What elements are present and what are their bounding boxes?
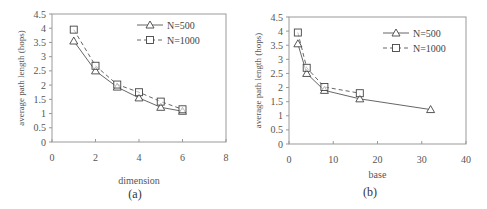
y-tick-label: 3 — [41, 51, 46, 62]
x-axis-label: dimension — [118, 175, 160, 186]
y-tick-label: 1.5 — [34, 94, 47, 105]
square-marker — [294, 29, 301, 36]
y-tick-label: 0 — [278, 139, 283, 150]
legend-label: N=500 — [167, 20, 195, 31]
series-line — [298, 44, 431, 110]
triangle-icon — [392, 29, 400, 36]
square-marker — [92, 62, 99, 69]
y-tick-label: 2 — [278, 82, 283, 93]
series-line — [298, 33, 360, 94]
legend-label: N=1000 — [413, 43, 446, 54]
square-marker — [356, 90, 363, 97]
figure: 00.511.522.533.544.502468dimensionaverag… — [0, 0, 487, 209]
plot-area — [52, 14, 226, 142]
caption: (b) — [363, 185, 377, 199]
square-marker — [157, 98, 164, 105]
legend: N=500N=1000 — [137, 20, 200, 46]
series-line — [74, 41, 183, 111]
x-tick-label: 2 — [93, 152, 98, 163]
square-marker — [179, 106, 186, 113]
x-tick-label: 6 — [180, 152, 185, 163]
x-tick-label: 8 — [224, 152, 229, 163]
square-marker — [70, 26, 77, 33]
triangle-marker — [70, 37, 78, 44]
y-tick-label: 3.5 — [271, 40, 284, 51]
y-tick-label: 1.5 — [271, 96, 284, 107]
x-tick-label: 20 — [373, 154, 383, 165]
x-axis-label: base — [369, 169, 387, 180]
y-tick-label: 2 — [41, 80, 46, 91]
x-tick-label: 40 — [461, 154, 471, 165]
square-marker — [136, 89, 143, 96]
chart-b: 00.511.522.533.544.5010203040baseaverage… — [253, 12, 471, 200]
legend: N=500N=1000 — [383, 28, 446, 54]
y-tick-label: 0 — [41, 137, 46, 148]
y-tick-label: 4 — [41, 23, 46, 34]
x-tick-label: 4 — [137, 152, 142, 163]
square-icon — [147, 37, 154, 44]
y-tick-label: 1 — [278, 110, 283, 121]
y-tick-label: 3 — [278, 54, 283, 65]
y-tick-label: 0.5 — [34, 122, 47, 133]
y-axis-label: average path length (hops) — [16, 30, 26, 126]
y-tick-label: 4.5 — [34, 9, 47, 20]
y-tick-label: 2.5 — [271, 68, 284, 79]
x-tick-label: 10 — [328, 154, 338, 165]
triangle-marker — [294, 40, 302, 47]
y-tick-label: 4 — [278, 26, 283, 37]
x-tick-label: 0 — [287, 154, 292, 165]
y-axis-label: average path length (hops) — [253, 33, 263, 129]
square-marker — [303, 64, 310, 71]
legend-label: N=1000 — [167, 35, 200, 46]
x-tick-label: 30 — [417, 154, 427, 165]
x-tick-label: 0 — [50, 152, 55, 163]
y-tick-label: 1 — [41, 108, 46, 119]
triangle-icon — [146, 21, 154, 28]
y-tick-label: 2.5 — [34, 65, 47, 76]
legend-label: N=500 — [413, 28, 441, 39]
square-marker — [114, 81, 121, 88]
caption: (a) — [128, 187, 141, 201]
chart-a: 00.511.522.533.544.502468dimensionaverag… — [16, 9, 229, 202]
y-tick-label: 0.5 — [271, 124, 284, 135]
square-marker — [321, 83, 328, 90]
square-icon — [393, 45, 400, 52]
y-tick-label: 4.5 — [271, 12, 284, 23]
y-tick-label: 3.5 — [34, 37, 47, 48]
